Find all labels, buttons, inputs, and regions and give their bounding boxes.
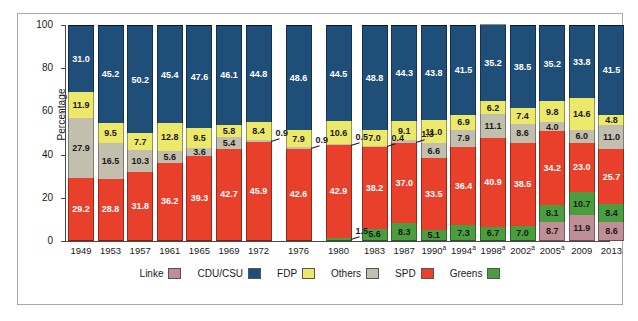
segment-cdu-csu-1957: 50.2 — [127, 25, 153, 133]
value-label: 11.9 — [570, 223, 594, 232]
y-tick-label: 40 — [42, 149, 53, 160]
segment-others-1994: 7.9 — [450, 130, 476, 147]
legend-item-greens: Greens — [450, 268, 501, 279]
value-label: 10.3 — [128, 157, 152, 166]
segment-fdp-1961: 12.8 — [157, 123, 183, 151]
value-label: 4.0 — [540, 122, 564, 131]
value-label: 9.8 — [540, 107, 564, 116]
segment-others-1965: 3.6 — [186, 148, 212, 156]
callout-label: 0.4 — [392, 134, 405, 143]
chart-legend: LinkeCDU/CSUFDPOthersSPDGreens — [18, 268, 622, 279]
segment-greens-2005: 8.1 — [539, 205, 565, 222]
segment-linke-2005: 8.7 — [539, 222, 565, 241]
segment-greens-1998: 6.7 — [480, 227, 506, 241]
segment-spd-2013: 25.7 — [598, 149, 624, 205]
legend-label: Linke — [140, 268, 164, 279]
bar-2005: 8.78.134.24.09.835.2 — [539, 25, 565, 241]
value-label: 44.8 — [247, 69, 271, 78]
value-label: 40.9 — [481, 178, 505, 187]
value-label: 36.4 — [451, 181, 475, 190]
segment-spd-1953: 28.8 — [98, 179, 124, 241]
segment-cdu-csu-1990: 43.8 — [421, 25, 447, 120]
segment-spd-1957: 31.8 — [127, 172, 153, 241]
legend-label: FDP — [277, 268, 297, 279]
segment-others-1957: 10.3 — [127, 150, 153, 172]
segment-cdu-csu-1972: 44.8 — [246, 25, 272, 122]
y-tick-mark: 40 — [61, 155, 66, 156]
value-label: 7.0 — [511, 228, 535, 237]
legend-swatch — [487, 268, 500, 279]
chart-root: Percentage 020406080100 29.227.911.931.0… — [0, 0, 638, 321]
bar-1961: 36.25.612.845.4 — [157, 25, 183, 241]
value-label: 6.6 — [422, 146, 446, 155]
value-label: 8.6 — [599, 227, 623, 236]
y-tick-label: 60 — [42, 105, 53, 116]
segment-cdu-csu-1998: 35.2 — [480, 25, 506, 101]
value-label: 34.2 — [540, 163, 564, 172]
y-tick-mark: 20 — [61, 198, 66, 199]
bar-1998: 6.740.911.16.235.2 — [480, 25, 506, 241]
segment-others-1976 — [286, 147, 312, 149]
segment-spd-2009: 23.0 — [569, 143, 595, 193]
value-label: 7.9 — [451, 134, 475, 143]
value-label: 27.9 — [69, 143, 93, 152]
legend-label: SPD — [395, 268, 416, 279]
value-label: 4.8 — [599, 115, 623, 124]
segment-others-1998: 11.1 — [480, 114, 506, 138]
segment-linke-2009: 11.9 — [569, 215, 595, 241]
value-label: 45.9 — [247, 186, 271, 195]
segment-others-1980 — [326, 144, 352, 145]
legend-label: Others — [331, 268, 361, 279]
segment-cdu-csu-1969: 46.1 — [216, 25, 242, 125]
value-label: 38.2 — [363, 183, 387, 192]
value-label: 6.0 — [570, 132, 594, 141]
callout-label: 0.9 — [276, 129, 289, 138]
segment-cdu-csu-1980: 44.5 — [326, 25, 352, 121]
y-tick-label: 80 — [42, 62, 53, 73]
segment-cdu-csu-2009: 33.8 — [569, 25, 595, 98]
callout-label: 1.5 — [356, 227, 369, 236]
segment-fdp-2013: 4.8 — [598, 115, 624, 125]
value-label: 11.1 — [481, 122, 505, 131]
segment-cdu-csu-1961: 45.4 — [157, 25, 183, 123]
bar-2002: 7.038.58.67.438.5 — [510, 25, 536, 241]
segment-spd-1983: 38.2 — [362, 146, 388, 229]
segment-spd-1976: 42.6 — [286, 149, 312, 241]
segment-spd-1990: 33.5 — [421, 158, 447, 230]
callout-label: 0.9 — [316, 136, 329, 145]
y-tick-label: 0 — [47, 235, 53, 246]
segment-fdp-2002: 7.4 — [510, 108, 536, 124]
segment-greens-1994: 7.3 — [450, 225, 476, 241]
value-label: 38.5 — [511, 63, 535, 72]
bar-2009: 11.910.723.06.014.633.8 — [569, 25, 595, 241]
x-tick-label-1972: 1972 — [239, 245, 279, 256]
value-label: 41.5 — [451, 66, 475, 75]
segment-others-1961: 5.6 — [157, 151, 183, 163]
value-label: 3.6 — [187, 148, 211, 157]
segment-fdp-1976: 7.9 — [286, 130, 312, 147]
value-label: 8.1 — [540, 209, 564, 218]
segment-spd-1949: 29.2 — [68, 178, 94, 241]
value-label: 5.8 — [217, 126, 241, 135]
callout-leader-line — [350, 236, 359, 240]
value-label: 23.0 — [570, 163, 594, 172]
segment-others-1983 — [362, 146, 388, 147]
value-label: 9.5 — [99, 128, 123, 137]
segment-fdp-1980: 10.6 — [326, 121, 352, 144]
segment-others-1949: 27.9 — [68, 118, 94, 178]
segment-cdu-csu-1994: 41.5 — [450, 25, 476, 115]
callout-label: 1.3 — [421, 130, 434, 139]
segment-spd-1965: 39.3 — [186, 156, 212, 241]
value-label: 6.2 — [481, 103, 505, 112]
segment-fdp-1969: 5.8 — [216, 125, 242, 138]
segment-others-2009: 6.0 — [569, 130, 595, 143]
segment-spd-1969: 42.7 — [216, 149, 242, 241]
x-tick-label-1980: 1980 — [319, 245, 359, 256]
legend-item-linke: Linke — [140, 268, 182, 279]
segment-spd-1961: 36.2 — [157, 163, 183, 241]
segment-others-2013: 11.0 — [598, 125, 624, 149]
segment-spd-1987: 37.0 — [391, 143, 417, 223]
value-label: 11.9 — [69, 100, 93, 109]
value-label: 8.7 — [540, 227, 564, 236]
legend-item-others: Others — [331, 268, 379, 279]
